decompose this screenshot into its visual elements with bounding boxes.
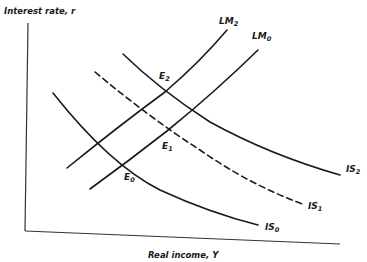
lm0-curve bbox=[90, 50, 258, 189]
is1-label: IS1 bbox=[308, 201, 322, 213]
lm2-label: LM2 bbox=[219, 16, 239, 28]
is2-curve bbox=[123, 54, 340, 175]
e2-label: E2 bbox=[159, 71, 170, 83]
y-axis-label: Interest rate, r bbox=[4, 6, 76, 16]
x-axis bbox=[25, 231, 340, 244]
is2-label: IS2 bbox=[346, 164, 361, 176]
is0-curve bbox=[53, 93, 258, 225]
is0-label: IS0 bbox=[265, 222, 280, 234]
y-axis bbox=[25, 23, 28, 231]
e1-label: E1 bbox=[162, 141, 173, 153]
x-axis-label: Real income, Y bbox=[148, 250, 219, 260]
lm0-label: LM0 bbox=[252, 31, 272, 43]
is1-curve bbox=[95, 72, 305, 205]
is-lm-diagram: Interest rate, r Real income, Y LM2 LM0 … bbox=[0, 0, 367, 262]
